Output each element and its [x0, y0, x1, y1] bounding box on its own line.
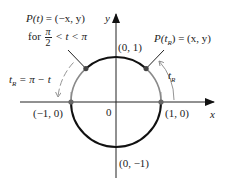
label-p-t-condition: for π2 < t < π: [28, 27, 87, 48]
fraction-pi-over-2: π2: [45, 27, 52, 48]
point-p-tr: [144, 66, 149, 71]
y-axis-label: y: [105, 13, 110, 24]
arc-left-gray: [71, 69, 86, 102]
label-point-left: (−1, 0): [33, 108, 63, 119]
x-axis-label: x: [210, 109, 215, 120]
point-neg1-0: [68, 99, 73, 104]
unit-circle-diagram: y x 0 (0, 1) (0, −1) (−1, 0) (1, 0) P(t)…: [0, 0, 229, 188]
label-p-t-definition: P(t) = (−x, y): [26, 13, 85, 24]
point-p-t: [83, 66, 88, 71]
condition-for: for: [28, 30, 44, 42]
condition-range: < t < π: [53, 30, 87, 42]
label-point-bottom: (0, −1): [119, 158, 149, 169]
p-t-eq: = (−x, y): [43, 12, 85, 24]
arc-tr-left: [58, 63, 74, 98]
origin-label: 0: [106, 107, 112, 118]
radial-line-p-tr: [146, 50, 164, 69]
label-tr-equation: tR = π − t: [9, 74, 51, 88]
arc-right-gray: [146, 69, 161, 102]
label-p-tr-definition: P(tR) = (x, y): [154, 33, 211, 47]
p-t-lhs: P(t): [26, 12, 43, 24]
point-1-0: [158, 99, 163, 104]
label-point-top: (0, 1): [118, 42, 142, 53]
label-point-right: (1, 0): [165, 108, 189, 119]
label-tr-arc: tR: [168, 70, 175, 84]
